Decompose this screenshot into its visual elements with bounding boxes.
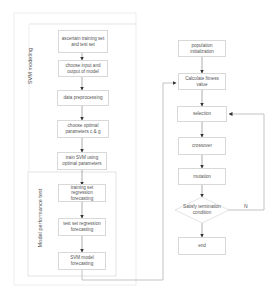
test-forecast-box: test set regression forecasting [58,218,106,236]
choose-params-box: choose optimal parameters c & g [57,120,109,138]
ascertain-box: ascertain training set and test set [58,30,108,53]
fitness-box: Calculate fitness value [178,73,226,90]
no-edge-label: N [244,203,248,209]
model-performance-label: Model performance test [37,188,43,248]
flowchart-canvas: SVM modeling Model performance test asce… [0,0,280,298]
connector-layer [0,0,280,298]
termination-condition-label: Satisfy termination condition [180,203,224,217]
mutation-box: mutation [178,168,226,185]
preprocess-box: data preprocessing [57,90,109,106]
train-svm-box: train SVM using optimal parameters [57,152,107,170]
population-init-box: population initialization [178,40,226,57]
choose-io-box: choose input and output of model [58,60,108,77]
svm-forecast-box: SVM model forecasting [58,252,106,270]
svm-modeling-label: SVM modeling [27,42,33,90]
training-forecast-box: training set regression forecasting [58,184,106,202]
crossover-box: crossover [178,137,226,155]
end-box: end [178,237,226,255]
selection-box: selection [177,106,227,122]
